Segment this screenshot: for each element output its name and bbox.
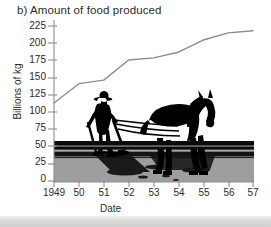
background-illustration bbox=[54, 89, 254, 182]
data-line bbox=[54, 31, 253, 103]
page-bottom-strip bbox=[0, 216, 271, 227]
chart-canvas bbox=[0, 0, 271, 227]
